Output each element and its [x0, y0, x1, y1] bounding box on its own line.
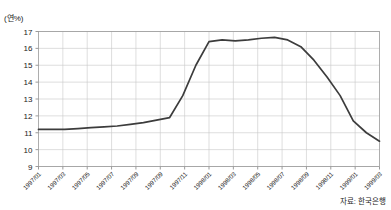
y-tick-label: 14: [24, 78, 33, 87]
x-tick-label: 1997/11: [168, 170, 189, 191]
y-tick-label: 13: [24, 95, 33, 104]
y-tick-label: 16: [24, 44, 33, 53]
x-tick-label: 1998/07: [265, 170, 286, 191]
x-tick-label: 1998/03: [216, 170, 237, 191]
y-tick-label: 10: [24, 146, 33, 155]
x-tick-label: 1997/09: [119, 170, 140, 191]
y-tick-label: 17: [24, 28, 33, 37]
y-tick-label: 11: [24, 129, 33, 138]
source-note: 자료: 한국은행: [340, 197, 386, 206]
x-tick-label: 1998/11: [314, 170, 335, 191]
x-tick-label: 1997/03: [46, 170, 67, 191]
x-axis-tick-labels: 1997/011997/031997/051997/071997/091997/…: [21, 170, 383, 191]
y-axis-tick-labels: 91011121314151617: [24, 28, 33, 172]
x-tick-label: 1997/07: [95, 170, 116, 191]
y-tick-label: 9: [28, 163, 33, 172]
y-axis-unit-label: (연%): [4, 14, 23, 24]
x-tick-label: 1998/05: [241, 170, 262, 191]
x-tick-label: 1997/01: [21, 170, 42, 191]
chart-figure: (연%) 91011121314151617 1997/011997/03199…: [0, 0, 391, 210]
x-tick-label: 1999/03: [362, 170, 383, 191]
y-tick-label: 12: [24, 112, 33, 121]
x-tick-label: 1998/01: [192, 170, 213, 191]
x-tick-label: 1999/01: [338, 170, 359, 191]
x-tick-label: 1998/09: [289, 170, 310, 191]
x-tick-label: 1997/09: [143, 170, 164, 191]
y-tick-label: 15: [24, 61, 33, 70]
x-tick-label: 1997/05: [70, 170, 91, 191]
line-chart-plot: 91011121314151617 1997/011997/031997/051…: [0, 0, 391, 210]
